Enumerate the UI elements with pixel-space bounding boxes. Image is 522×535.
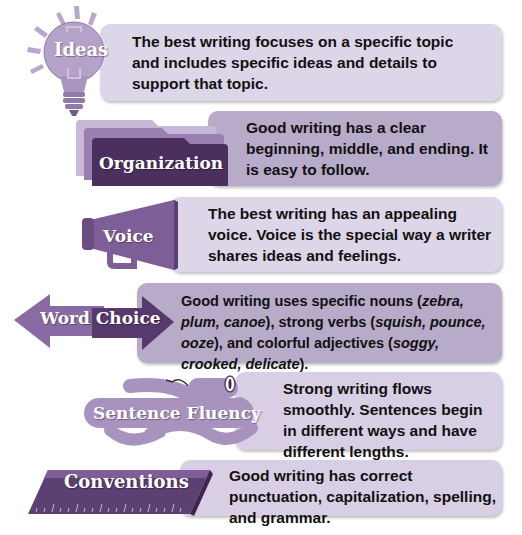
trait-label-organization: Organization (99, 153, 223, 173)
trait-description-word-choice: Good writing uses specific nouns (zebra,… (181, 291, 501, 375)
trait-label-conventions: Conventions (64, 471, 189, 492)
folder-icon (72, 116, 232, 188)
trait-label-voice: Voice (103, 226, 154, 246)
trait-description-ideas: The best writing focuses on a specific t… (132, 31, 482, 94)
trait-label-sentence-fluency: Sentence Fluency (93, 403, 261, 423)
lightbulb-icon (22, 2, 132, 122)
trait-description-organization: Good writing has a clear beginning, midd… (246, 117, 496, 180)
trait-label-word-choice: Word Choice (40, 308, 161, 328)
trait-description-conventions: Good writing has correct punctuation, ca… (229, 465, 504, 528)
trait-label-ideas: Ideas (54, 39, 108, 60)
trait-description-voice: The best writing has an appealing voice.… (208, 203, 498, 266)
trait-description-sentence-fluency: Strong writing flows smoothly. Sentences… (283, 378, 498, 462)
